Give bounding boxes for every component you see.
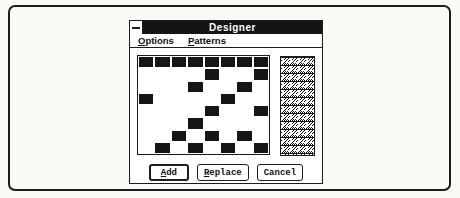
pattern-cell[interactable] <box>236 130 252 142</box>
pattern-cell[interactable] <box>171 56 187 68</box>
pattern-cell[interactable] <box>171 68 187 80</box>
button-row: Add Replace Cancel <box>130 164 322 181</box>
pattern-cell[interactable] <box>220 68 236 80</box>
pattern-cell[interactable] <box>204 142 220 154</box>
pattern-cell[interactable] <box>187 93 203 105</box>
pattern-cell[interactable] <box>236 56 252 68</box>
menu-patterns-label: atterns <box>194 35 226 46</box>
control-menu-dash-icon <box>132 27 140 29</box>
pattern-cell[interactable] <box>253 105 269 117</box>
pattern-preview <box>280 56 315 156</box>
pattern-cell[interactable] <box>171 130 187 142</box>
replace-button-label: eplace <box>209 168 241 178</box>
pattern-cell[interactable] <box>187 56 203 68</box>
pattern-cell[interactable] <box>187 81 203 93</box>
pattern-cell[interactable] <box>220 56 236 68</box>
pattern-cell[interactable] <box>138 117 154 129</box>
pattern-cell[interactable] <box>138 93 154 105</box>
window-title: Designer <box>143 21 322 34</box>
add-button-label: dd <box>166 168 177 178</box>
pattern-cell[interactable] <box>154 105 170 117</box>
pattern-cell[interactable] <box>138 105 154 117</box>
pattern-cell[interactable] <box>187 68 203 80</box>
title-bar: Designer <box>130 21 322 34</box>
pattern-cell[interactable] <box>236 105 252 117</box>
pattern-cell[interactable] <box>154 56 170 68</box>
pattern-cell[interactable] <box>138 142 154 154</box>
replace-button[interactable]: Replace <box>197 164 249 181</box>
pattern-cell[interactable] <box>204 56 220 68</box>
pattern-cell[interactable] <box>171 142 187 154</box>
pattern-cell[interactable] <box>236 93 252 105</box>
pattern-cell[interactable] <box>236 68 252 80</box>
pattern-cell[interactable] <box>220 93 236 105</box>
pattern-cell[interactable] <box>220 81 236 93</box>
menu-options[interactable]: Options <box>138 35 174 46</box>
pattern-cell[interactable] <box>187 117 203 129</box>
menu-patterns[interactable]: Patterns <box>188 35 226 46</box>
pattern-cell[interactable] <box>204 81 220 93</box>
pattern-cell[interactable] <box>171 117 187 129</box>
client-area <box>130 48 322 162</box>
pattern-grid[interactable] <box>137 55 270 155</box>
cancel-button-label: Cancel <box>264 168 296 178</box>
pattern-cell[interactable] <box>220 117 236 129</box>
pattern-cell[interactable] <box>171 105 187 117</box>
pattern-cell[interactable] <box>171 93 187 105</box>
add-button[interactable]: Add <box>149 164 189 181</box>
pattern-cell[interactable] <box>154 81 170 93</box>
pattern-cell[interactable] <box>171 81 187 93</box>
pattern-cell[interactable] <box>253 68 269 80</box>
pattern-cell[interactable] <box>204 117 220 129</box>
figure-frame: Designer Options Patterns Add Replace Ca… <box>8 5 451 191</box>
pattern-cell[interactable] <box>154 130 170 142</box>
pattern-cell[interactable] <box>154 68 170 80</box>
pattern-cell[interactable] <box>187 130 203 142</box>
pattern-cell[interactable] <box>138 68 154 80</box>
pattern-cell[interactable] <box>253 117 269 129</box>
pattern-cell[interactable] <box>204 105 220 117</box>
pattern-cell[interactable] <box>220 142 236 154</box>
pattern-cell[interactable] <box>204 130 220 142</box>
pattern-cell[interactable] <box>236 117 252 129</box>
control-menu-button[interactable] <box>130 21 143 34</box>
pattern-cell[interactable] <box>138 56 154 68</box>
pattern-cell[interactable] <box>253 81 269 93</box>
pattern-cell[interactable] <box>236 142 252 154</box>
pattern-cell[interactable] <box>154 142 170 154</box>
menu-options-label: ptions <box>145 35 174 46</box>
pattern-cell[interactable] <box>253 142 269 154</box>
pattern-cell[interactable] <box>204 68 220 80</box>
pattern-cell[interactable] <box>236 81 252 93</box>
pattern-cell[interactable] <box>187 142 203 154</box>
designer-window: Designer Options Patterns Add Replace Ca… <box>129 20 323 184</box>
pattern-cell[interactable] <box>253 93 269 105</box>
pattern-cell[interactable] <box>220 105 236 117</box>
pattern-cell[interactable] <box>253 56 269 68</box>
cancel-button[interactable]: Cancel <box>257 164 303 181</box>
pattern-cell[interactable] <box>220 130 236 142</box>
pattern-cell[interactable] <box>253 130 269 142</box>
menu-bar: Options Patterns <box>130 34 322 48</box>
pattern-cell[interactable] <box>204 93 220 105</box>
pattern-cell[interactable] <box>154 117 170 129</box>
pattern-cell[interactable] <box>187 105 203 117</box>
pattern-cell[interactable] <box>154 93 170 105</box>
pattern-cell[interactable] <box>138 130 154 142</box>
pattern-cell[interactable] <box>138 81 154 93</box>
